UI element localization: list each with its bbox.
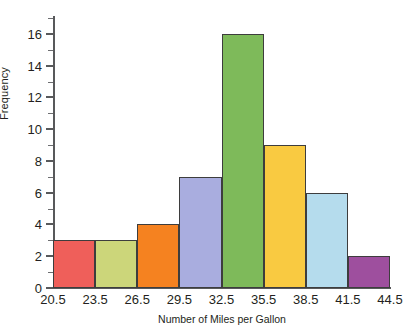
y-axis-tick — [46, 160, 53, 162]
y-axis-minor-tick — [48, 113, 53, 114]
y-axis-minor-tick — [48, 50, 53, 51]
y-axis-tick — [46, 287, 53, 289]
histogram-bar — [306, 193, 348, 288]
x-axis-tick-label: 20.5 — [40, 293, 65, 306]
y-axis-tick-label: 16 — [28, 28, 42, 41]
y-axis-title: Frequency — [0, 67, 10, 120]
y-axis-tick-label: 10 — [28, 123, 42, 136]
y-axis-tick — [46, 255, 53, 257]
y-axis-tick-label: 12 — [28, 91, 42, 104]
histogram-bar — [264, 145, 306, 288]
y-axis-minor-tick — [48, 18, 53, 19]
x-axis-tick-label: 38.5 — [293, 293, 318, 306]
y-axis-tick — [46, 33, 53, 35]
y-axis-tick — [46, 223, 53, 225]
y-axis-tick — [46, 65, 53, 67]
y-axis-tick-label: 14 — [28, 60, 42, 73]
plot-area — [53, 18, 390, 288]
y-axis-minor-tick — [48, 209, 53, 210]
x-axis-tick-label: 32.5 — [209, 293, 234, 306]
x-axis-tick-label: 44.5 — [377, 293, 402, 306]
y-axis-minor-tick — [48, 177, 53, 178]
y-axis-tick-label: 8 — [35, 155, 42, 168]
y-axis-tick-label: 6 — [35, 187, 42, 200]
x-axis-tick-label: 41.5 — [335, 293, 360, 306]
y-axis-tick-label: 4 — [35, 218, 42, 231]
y-axis-tick — [46, 96, 53, 98]
x-axis-tick-label: 26.5 — [125, 293, 150, 306]
y-axis-minor-tick — [48, 145, 53, 146]
y-axis-tick — [46, 128, 53, 130]
y-axis-minor-tick — [48, 272, 53, 273]
histogram-bar — [95, 240, 137, 288]
x-axis-title: Number of Miles per Gallon — [53, 313, 391, 325]
x-axis-tick-label: 23.5 — [82, 293, 107, 306]
y-axis-minor-tick — [48, 240, 53, 241]
x-axis-tick-label: 29.5 — [167, 293, 192, 306]
histogram-figure: 0246810121416 20.523.526.529.532.535.538… — [0, 0, 419, 336]
histogram-bar — [179, 177, 221, 288]
x-axis-tick-label: 35.5 — [251, 293, 276, 306]
histogram-bar — [137, 224, 179, 288]
y-axis-tick-label: 2 — [35, 250, 42, 263]
histogram-bar — [53, 240, 95, 288]
y-axis-minor-tick — [48, 82, 53, 83]
histogram-bar — [348, 256, 390, 288]
histogram-bar — [222, 34, 264, 288]
y-axis-tick — [46, 192, 53, 194]
